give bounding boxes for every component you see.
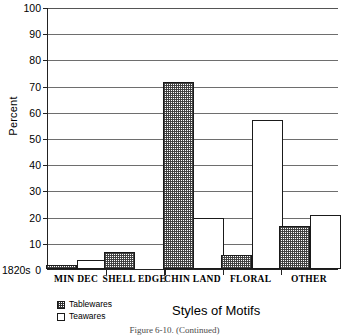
y-tick-90: 90 [29,29,41,39]
legend-swatch-teawares-icon [57,313,65,321]
legend-item-tablewares: Tablewares [57,299,112,310]
bar-tablewares-shell-edge [104,252,135,269]
y-tick-0: 0 [35,265,41,275]
y-tick-80: 80 [29,55,41,65]
bar-tablewares-chin-land [163,82,194,269]
y-tick-40: 40 [29,160,41,170]
y-tick-100: 100 [23,3,41,13]
y-tick-50: 50 [29,134,41,144]
figure-caption: Figure 6-10. (Continued) [0,325,349,335]
bar-group [106,8,164,269]
x-axis-title: Styles of Motifs [172,303,260,318]
x-tick-label-shell-edge: SHELL EDGE [103,274,166,284]
y-axis-tick-labels: 1009080706050403020100 [0,0,45,280]
y-tick-30: 30 [29,186,41,196]
x-tick-label-min-dec: MIN DEC [54,274,98,284]
x-axis-tick-labels: MIN DECSHELL EDGECHIN LANDFLORALOTHER [47,274,338,290]
bar-tablewares-other [279,226,310,269]
legend-label-tablewares: Tablewares [69,300,112,309]
origin-era-label: 1820s [2,265,31,275]
x-tick-label-floral: FLORAL [230,274,271,284]
x-tick-label-other: OTHER [291,274,327,284]
bar-teawares-other [310,215,341,269]
y-tick-10: 10 [29,239,41,249]
bar-group [48,8,106,269]
plot-area [47,8,338,270]
y-tick-20: 20 [29,213,41,223]
legend: Tablewares Teawares [57,299,112,323]
plot-inner [48,8,338,269]
bar-group [164,8,222,269]
bar-tablewares-min-dec [46,265,77,269]
y-tick-60: 60 [29,108,41,118]
bar-group [223,8,281,269]
bar-tablewares-floral [221,255,252,269]
legend-swatch-tablewares-icon [57,301,65,309]
x-tick-label-chin-land: CHIN LAND [164,274,221,284]
bar-group [281,8,339,269]
legend-item-teawares: Teawares [57,311,112,322]
legend-label-teawares: Teawares [69,312,105,321]
y-tick-70: 70 [29,82,41,92]
